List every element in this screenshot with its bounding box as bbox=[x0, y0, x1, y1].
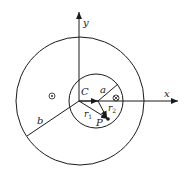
x-axis-label: x bbox=[164, 88, 170, 99]
point-p-label: P bbox=[95, 117, 103, 128]
r1-label: r1 bbox=[84, 109, 92, 120]
into-page-icon bbox=[113, 95, 119, 101]
point-p bbox=[106, 117, 110, 121]
inner-radius-label: a bbox=[100, 84, 106, 95]
r2-label: r2 bbox=[108, 103, 116, 114]
diagram-canvas: y x C a b r1 r2 P bbox=[0, 0, 192, 180]
radius-b-line bbox=[27, 101, 79, 136]
outer-radius-label: b bbox=[37, 115, 43, 126]
out-of-page-icon bbox=[49, 93, 55, 99]
y-axis-label: y bbox=[82, 17, 89, 28]
center-label: C bbox=[81, 86, 89, 97]
